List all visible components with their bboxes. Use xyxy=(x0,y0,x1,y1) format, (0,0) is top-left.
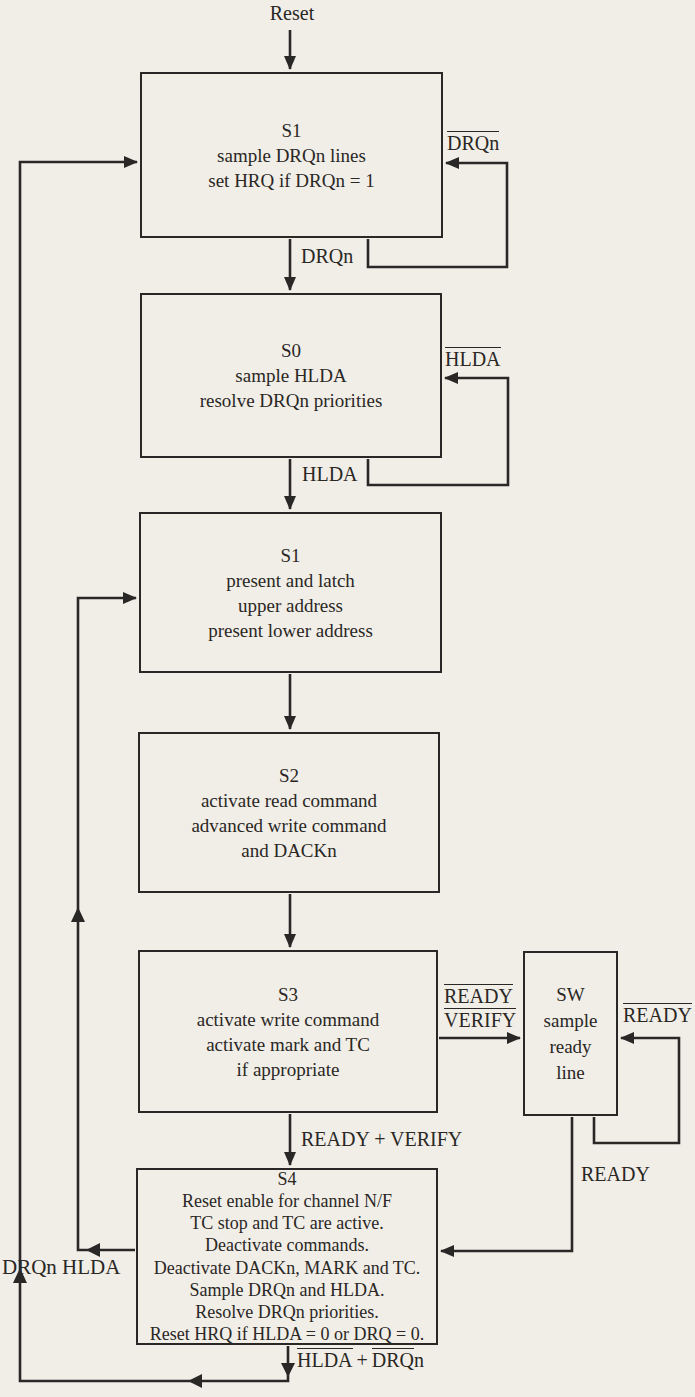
flowchart-canvas: S1 sample DRQn lines set HRQ if DRQn = 1… xyxy=(0,0,695,1397)
state-line: set HRQ if DRQn = 1 xyxy=(208,168,374,193)
state-line: Deactivate DACKn, MARK and TC. xyxy=(154,1257,421,1279)
edge-label-s0-loop: HLDA xyxy=(445,347,501,371)
edge-label-sw-exit: READY xyxy=(581,1163,650,1186)
state-line: line xyxy=(556,1060,585,1086)
state-line: activate read command xyxy=(201,788,377,813)
state-box-s0: S0 sample HLDA resolve DRQn priorities xyxy=(140,293,442,458)
overlined-signal: VERIFY xyxy=(444,1008,516,1030)
overlined-signal: DRQ xyxy=(372,1348,414,1370)
overlined-signal: READY xyxy=(623,1003,692,1025)
state-line: advanced write command xyxy=(191,813,386,838)
overlined-signal: HLDA xyxy=(297,1348,353,1370)
state-line: activate write command xyxy=(197,1007,380,1032)
state-line: sample HLDA xyxy=(235,363,346,388)
overlined-signal: DRQn xyxy=(447,131,499,153)
edge-label-s4-left-exit: DRQn HLDA xyxy=(2,1256,120,1279)
state-line: present lower address xyxy=(208,618,373,643)
state-line: and DACKn xyxy=(241,838,337,863)
arrowhead-up-inner-feedback xyxy=(71,907,85,922)
state-line: Deactivate commands. xyxy=(205,1234,369,1256)
state-box-s1: S1 present and latch upper address prese… xyxy=(139,512,442,673)
state-title: S3 xyxy=(278,982,298,1007)
state-title: S2 xyxy=(279,763,299,788)
edge-s4-to-s1 xyxy=(78,598,136,1250)
state-line: Resolve DRQn priorities. xyxy=(195,1301,378,1323)
state-line: activate mark and TC xyxy=(206,1032,370,1057)
state-line: sample xyxy=(544,1008,598,1034)
state-line: TC stop and TC are active. xyxy=(190,1212,384,1234)
edge-label-s3-wait: READY VERIFY xyxy=(444,984,516,1032)
edge-label-si-exit: DRQn xyxy=(301,245,353,268)
edge-label-sw-loop: READY xyxy=(623,1003,692,1027)
edge-label-s0-exit: HLDA xyxy=(302,463,358,486)
state-title: S0 xyxy=(281,338,301,363)
state-line: sample DRQn lines xyxy=(217,143,366,168)
state-title: SW xyxy=(556,982,585,1008)
state-line: ready xyxy=(549,1034,591,1060)
overlined-signal-row: READY xyxy=(444,984,516,1008)
state-line: upper address xyxy=(238,593,343,618)
state-title: S1 xyxy=(281,118,301,143)
state-title: S4 xyxy=(277,1168,296,1190)
arrowhead-left-bottom-line xyxy=(188,1374,202,1388)
overlined-signal-row: VERIFY xyxy=(444,1008,516,1032)
edge-label-s4-bottom-exit: HLDA+DRQn xyxy=(297,1348,424,1372)
edge-label-s3-exit: READY + VERIFY xyxy=(301,1128,462,1151)
state-line: Sample DRQn and HLDA. xyxy=(190,1279,385,1301)
state-box-s3: S3 activate write command activate mark … xyxy=(138,950,438,1113)
state-box-s4: S4 Reset enable for channel N/F TC stop … xyxy=(136,1168,438,1345)
edge-label-reset: Reset xyxy=(250,2,334,25)
signal-subscript: n xyxy=(414,1349,424,1371)
state-box-sw: SW sample ready line xyxy=(523,951,618,1116)
state-line: if appropriate xyxy=(237,1057,340,1082)
overlined-signal: READY xyxy=(444,984,513,1006)
state-line: present and latch xyxy=(226,568,355,593)
plus-operator: + xyxy=(353,1349,372,1371)
overlined-signal: HLDA xyxy=(445,347,501,369)
state-line: Reset HRQ if HLDA = 0 or DRQ = 0. xyxy=(150,1323,424,1345)
arrowhead-down-s4-bottom xyxy=(281,1363,295,1377)
state-line: Reset enable for channel N/F xyxy=(182,1190,392,1212)
state-line: resolve DRQn priorities xyxy=(200,388,383,413)
state-box-s2: S2 activate read command advanced write … xyxy=(138,732,440,893)
state-box-si: S1 sample DRQn lines set HRQ if DRQn = 1 xyxy=(140,72,443,238)
state-title: S1 xyxy=(280,543,300,568)
edge-label-si-loop: DRQn xyxy=(447,131,499,155)
